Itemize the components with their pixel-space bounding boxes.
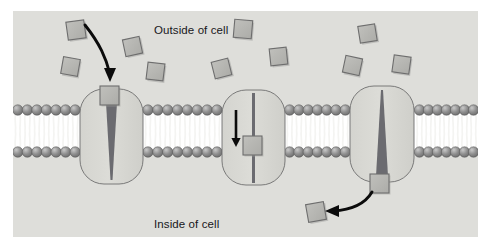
lipid-tail — [329, 114, 330, 131]
lipid-head — [212, 147, 222, 157]
lipid-head — [153, 147, 163, 157]
lipid-tail — [180, 131, 181, 148]
solute-square — [66, 20, 86, 40]
lipid-head — [32, 147, 42, 157]
lipid-tail — [195, 114, 196, 131]
solute-square — [269, 47, 288, 66]
lipid-head — [182, 147, 192, 157]
lipid-head — [22, 105, 32, 115]
lipid-tail — [310, 131, 311, 148]
lipid-tail — [39, 131, 40, 148]
solute-particle — [60, 57, 82, 79]
lipid-tail — [77, 114, 78, 131]
solute-particle — [306, 201, 329, 224]
lipid-tail — [476, 131, 477, 148]
lipid-tail — [338, 131, 339, 148]
lipid-head — [294, 147, 304, 157]
lipid-tail — [15, 114, 16, 131]
lipid-head — [468, 147, 478, 157]
lipid-tail — [453, 114, 454, 131]
solute-particle — [392, 55, 413, 76]
lipid-tail — [145, 131, 146, 148]
lipid-tail — [49, 131, 50, 148]
lipid-tail — [471, 114, 472, 131]
lipid-tail — [180, 114, 181, 131]
lipid-tail — [306, 114, 307, 131]
lipid-head — [22, 147, 32, 157]
solute-square — [306, 202, 327, 223]
lipid-tail — [333, 114, 334, 131]
lipid-tail — [462, 114, 463, 131]
transport-protein-3[interactable] — [350, 86, 414, 195]
lipid-tail — [219, 131, 220, 148]
lipid-tail — [343, 114, 344, 131]
lipid-tail — [185, 131, 186, 148]
lipid-tail — [204, 131, 205, 148]
lipid-tail — [306, 131, 307, 148]
lipid-tail — [324, 114, 325, 131]
lipid-tail — [29, 114, 30, 131]
lipid-head — [60, 147, 70, 157]
lipid-tail — [209, 131, 210, 148]
lipid-tail — [209, 114, 210, 131]
lipid-head — [162, 147, 172, 157]
lipid-head — [51, 105, 61, 115]
lipid-head — [322, 105, 332, 115]
lipid-tail — [315, 114, 316, 131]
solute-particle — [269, 47, 289, 68]
lipid-head — [303, 147, 313, 157]
lipid-head — [312, 105, 322, 115]
lipid-tail — [296, 131, 297, 148]
lipid-head — [340, 105, 350, 115]
entry-arrow — [85, 25, 116, 82]
lipid-tail — [338, 114, 339, 131]
lipid-tail — [440, 114, 441, 131]
lipid-tail — [39, 114, 40, 131]
lipid-head — [32, 105, 42, 115]
transport-protein-2[interactable] — [222, 90, 285, 185]
solute-particle — [211, 58, 234, 81]
lipid-tail — [160, 114, 161, 131]
lipid-tail — [165, 131, 166, 148]
lipid-head — [182, 105, 192, 115]
lipid-tail — [53, 131, 54, 148]
lipid-head — [192, 105, 202, 115]
lipid-tail — [155, 114, 156, 131]
solute-particle — [122, 36, 144, 58]
lipid-tail — [417, 114, 418, 131]
solute-particle — [233, 19, 254, 40]
lipid-tail — [320, 114, 321, 131]
lipid-tail — [444, 114, 445, 131]
lipid-head — [41, 147, 51, 157]
solute-square — [358, 24, 377, 43]
lipid-tail — [324, 131, 325, 148]
lipid-tail — [422, 114, 423, 131]
transport-protein-1[interactable] — [80, 86, 143, 184]
lipid-tail — [170, 131, 171, 148]
lipid-head — [303, 105, 313, 115]
lipid-tail — [315, 131, 316, 148]
lipid-head — [468, 105, 478, 115]
lipid-tail — [165, 114, 166, 131]
solute-square — [122, 36, 142, 56]
lipid-tail — [199, 131, 200, 148]
solute-square — [61, 57, 81, 77]
lipid-tail — [44, 114, 45, 131]
lipid-tail — [25, 131, 26, 148]
lipid-tail — [453, 131, 454, 148]
lipid-tail — [190, 131, 191, 148]
lipid-tail — [68, 114, 69, 131]
lipid-head — [70, 105, 80, 115]
lipid-tail — [29, 131, 30, 148]
solute-particle — [342, 55, 364, 77]
lipid-tail — [150, 114, 151, 131]
lipid-head — [202, 147, 212, 157]
lipid-head — [143, 147, 153, 157]
lipid-head — [284, 105, 294, 115]
lipid-tail — [422, 131, 423, 148]
solute-particle — [66, 20, 88, 42]
lipid-tail — [347, 131, 348, 148]
lipid-head — [192, 147, 202, 157]
lipid-tail — [476, 114, 477, 131]
lipid-tail — [190, 114, 191, 131]
